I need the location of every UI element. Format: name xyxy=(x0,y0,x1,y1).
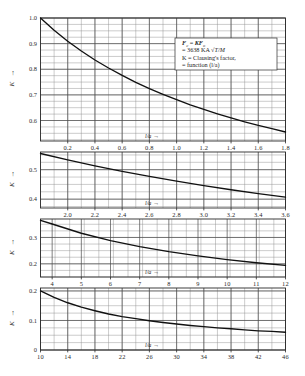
x-tick-label: 10 xyxy=(224,280,231,287)
x-tick-label: 1.2 xyxy=(200,144,209,151)
x-tick-label: 38 xyxy=(228,353,235,360)
x-tick-label: 2.8 xyxy=(172,211,181,218)
x-tick-label: 3.2 xyxy=(227,211,236,218)
x-tick-label: 46 xyxy=(282,353,289,360)
x-tick-label: 14 xyxy=(64,353,71,360)
x-tick-label: 30 xyxy=(173,353,180,360)
formula-line-2: = 3638 KA √T/M xyxy=(182,46,226,53)
x-tick-label: 11 xyxy=(253,280,260,287)
y-tick-label: 1.0 xyxy=(29,14,37,21)
y-axis-arrow-icon: ↑ xyxy=(11,69,15,77)
x-tick-label: 4 xyxy=(50,280,54,287)
formula-line-3: K = Clausing's factor, xyxy=(182,54,236,61)
y-tick-label: 0.1 xyxy=(29,317,37,324)
x-tick-label: 2.2 xyxy=(91,211,100,218)
x-tick-label: 7 xyxy=(138,280,142,287)
x-tick-label: 22 xyxy=(119,353,126,360)
y-tick-label: 0.9 xyxy=(29,40,37,47)
x-tick-label: 0.6 xyxy=(118,144,127,151)
x-tick-label: 0.8 xyxy=(145,144,154,151)
x-tick-label: 2.4 xyxy=(118,211,127,218)
x-tick-label: 10 xyxy=(37,353,44,360)
y-axis-symbol: K xyxy=(8,250,16,256)
y-axis-arrow-icon: ↑ xyxy=(11,170,15,178)
x-tick-label: 8 xyxy=(167,280,170,287)
x-tick-label: 0.2 xyxy=(63,144,72,151)
x-axis-title: l/a → xyxy=(145,200,159,206)
x-axis-title: l/a → xyxy=(145,133,159,139)
x-tick-label: 1.0 xyxy=(172,144,181,151)
y-axis-arrow-icon: ↑ xyxy=(11,309,15,317)
y-axis-arrow-icon: ↑ xyxy=(11,238,15,246)
x-tick-label: 2.0 xyxy=(63,211,72,218)
clausings-factor-chart: 0.60.70.80.91.00.20.40.60.81.01.21.41.61… xyxy=(0,0,305,376)
x-tick-label: 34 xyxy=(200,353,207,360)
y-tick-label: 0.6 xyxy=(29,117,37,124)
x-tick-label: 12 xyxy=(282,280,289,287)
clausings-factor-figure: 0.60.70.80.91.00.20.40.60.81.01.21.41.61… xyxy=(0,0,305,376)
x-tick-label: 6 xyxy=(109,280,112,287)
y-axis-symbol: K xyxy=(8,182,16,188)
x-tick-label: 26 xyxy=(146,353,153,360)
x-tick-label: 9 xyxy=(196,280,199,287)
x-axis-title: l/a → xyxy=(145,342,159,348)
x-tick-label: 1.8 xyxy=(281,144,290,151)
y-tick-label: 0.8 xyxy=(29,65,37,72)
y-tick-label: 0.2 xyxy=(29,260,37,267)
y-tick-label: 0.4 xyxy=(29,195,38,202)
panel-frame-3 xyxy=(41,219,286,277)
x-tick-label: 18 xyxy=(92,353,99,360)
y-tick-label: 0.5 xyxy=(29,166,37,173)
x-tick-label: 2.6 xyxy=(145,211,154,218)
x-tick-label: 1.4 xyxy=(227,144,236,151)
x-tick-label: 3.4 xyxy=(254,211,263,218)
x-tick-label: 0.4 xyxy=(91,144,100,151)
x-tick-label: 3.0 xyxy=(200,211,209,218)
x-tick-label: 42 xyxy=(255,353,262,360)
y-tick-label: 0.7 xyxy=(29,91,38,98)
y-tick-label: 0.2 xyxy=(29,287,37,294)
y-tick-label: 0.3 xyxy=(29,234,37,241)
y-axis-symbol: K xyxy=(8,82,16,88)
x-tick-label: 5 xyxy=(80,280,83,287)
x-axis-title: l/a → xyxy=(145,269,159,275)
y-axis-symbol: K xyxy=(8,321,16,327)
x-tick-label: 3.6 xyxy=(281,211,290,218)
formula-line-4: = function (l/a) xyxy=(182,61,220,69)
data-curve-panel-3 xyxy=(41,220,286,265)
x-tick-label: 1.6 xyxy=(254,144,263,151)
